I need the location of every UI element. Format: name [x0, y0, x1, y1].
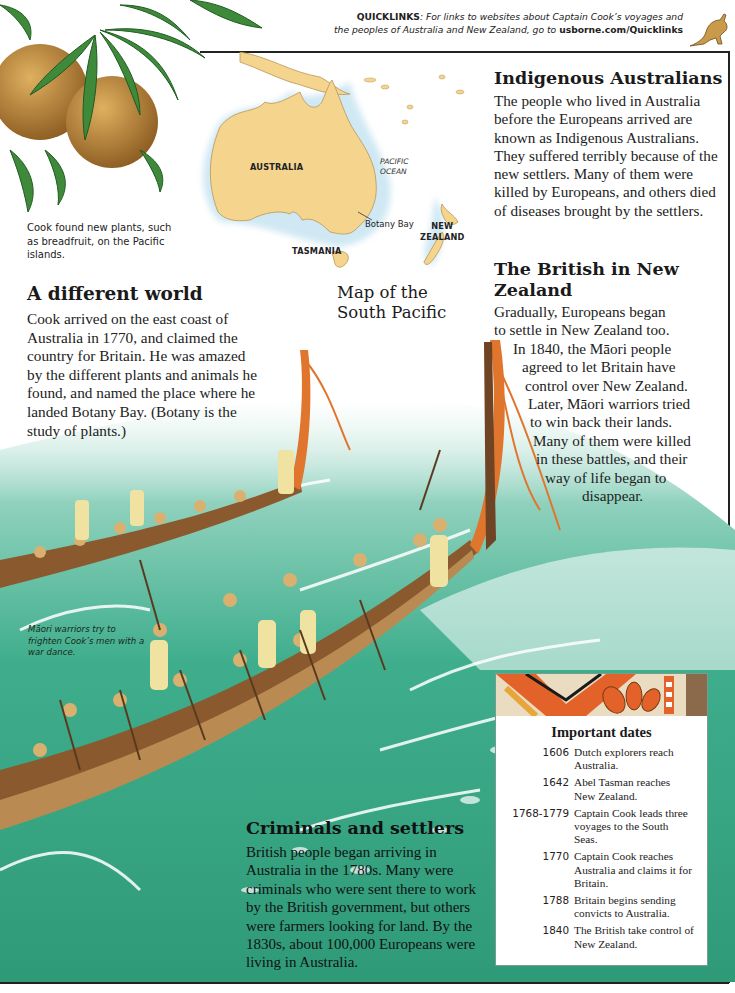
- quicklinks-label: QUICKLINKS: [357, 11, 420, 22]
- date-entry: 1840 The British take control of New Zea…: [496, 924, 707, 950]
- text-different-world: Cook arrived on the east coast of Austra…: [27, 310, 257, 440]
- map-label-pacific-ocean: PACIFIC OCEAN: [380, 157, 409, 177]
- date-text: Captain Cook reaches Australia and claim…: [574, 850, 694, 890]
- quicklinks-note: QUICKLINKS: For links to websites about …: [303, 10, 683, 36]
- date-year: 1840: [496, 924, 574, 950]
- date-entry: 1642 Abel Tasman reaches New Zealand.: [496, 776, 707, 802]
- date-text: Abel Tasman reaches New Zealand.: [574, 776, 694, 802]
- date-text: The British take control of New Zealand.: [574, 924, 694, 950]
- date-entry: 1788 Britain begins sending convicts to …: [496, 894, 707, 920]
- date-text: Dutch explorers reach Australia.: [574, 746, 694, 772]
- date-entry: 1768-1779 Captain Cook leads three voyag…: [496, 807, 707, 847]
- map-label-tasmania: TASMANIA: [292, 246, 342, 256]
- maori-carving-pattern: [496, 674, 707, 716]
- heading-different-world: A different world: [27, 283, 203, 304]
- important-dates-list: 1606 Dutch explorers reach Australia. 16…: [496, 746, 707, 955]
- heading-criminals-and-settlers: Criminals and settlers: [246, 818, 464, 838]
- date-entry: 1770 Captain Cook reaches Australia and …: [496, 850, 707, 890]
- page-frame-bottom: [0, 982, 729, 984]
- heading-british-in-new-zealand: The British in New Zealand: [494, 259, 694, 301]
- maori-warriors-caption: Māori warriors try to frighten Cook’s me…: [28, 624, 148, 659]
- important-dates-title: Important dates: [496, 724, 707, 741]
- date-text: Britain begins sending convicts to Austr…: [574, 894, 694, 920]
- date-year: 1642: [496, 776, 574, 802]
- map-label-australia: AUSTRALIA: [250, 162, 303, 172]
- date-year: 1606: [496, 746, 574, 772]
- date-year: 1770: [496, 850, 574, 890]
- important-dates-panel: Important dates 1606 Dutch explorers rea…: [495, 673, 708, 966]
- text-british-in-new-zealand: Gradually, Europeans began to settle in …: [494, 303, 730, 505]
- heading-indigenous-australians: Indigenous Australians: [494, 68, 722, 88]
- text-criminals-and-settlers: British people began arriving in Austral…: [246, 843, 486, 972]
- date-year: 1768-1779: [496, 807, 574, 847]
- date-year: 1788: [496, 894, 574, 920]
- date-text: Captain Cook leads three voyages to the …: [574, 807, 694, 847]
- text-indigenous-australians: The people who lived in Australia before…: [494, 92, 730, 220]
- map-title: Map of the South Pacific: [337, 283, 487, 323]
- kangaroo-icon: [686, 8, 732, 50]
- quicklinks-url-link[interactable]: usborne.com/Quicklinks: [559, 24, 683, 35]
- breadfruit-caption: Cook found new plants, such as breadfrui…: [27, 221, 177, 262]
- date-entry: 1606 Dutch explorers reach Australia.: [496, 746, 707, 772]
- map-label-botany-bay: Botany Bay: [365, 219, 414, 229]
- map-label-new-zealand: NEW ZEALAND: [420, 221, 464, 243]
